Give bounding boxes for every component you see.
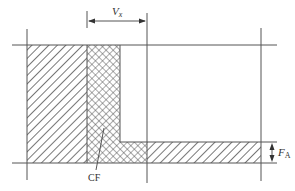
left-hatched-block [27, 45, 87, 163]
diagram-canvas: Vx FA CF [0, 0, 295, 191]
fa-up-arrow-icon [270, 143, 275, 150]
bottom-crosshatch-band [120, 142, 147, 163]
bottom-hatched-band [147, 142, 261, 163]
vx-label: Vx [112, 5, 123, 19]
vx-right-arrow-icon [139, 19, 146, 24]
cf-crosshatch-column [87, 45, 120, 163]
fa-down-arrow-icon [270, 155, 275, 162]
vx-left-arrow-icon [88, 19, 95, 24]
fa-label: FA [277, 146, 291, 160]
cf-label: CF [88, 172, 101, 183]
